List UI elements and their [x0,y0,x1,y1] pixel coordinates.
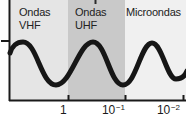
x-tick-label-10e-1-exponent: −1 [116,103,125,112]
wave-curve [10,42,186,85]
region-label-vhf: Ondas VHF [19,6,50,32]
x-tick-label-10e-2-base: 10 [157,103,170,117]
wave-band-diagram: Ondas VHF Ondas UHF Microondas 1 10−1 10… [0,0,186,121]
region-label-uhf-line2: UHF [75,19,97,31]
region-label-uhf: Ondas UHF [75,6,106,32]
region-label-microondas-line1: Microondas [126,6,181,18]
x-tick-label-10e-1: 10−1 [102,103,124,117]
x-tick-label-1: 1 [60,103,66,117]
region-label-vhf-line1: Ondas [19,6,50,18]
region-label-vhf-line2: VHF [19,19,40,31]
x-tick-label-10e-2: 10−2 [157,103,179,117]
region-label-uhf-line1: Ondas [75,6,106,18]
x-tick-label-10e-2-exponent: −2 [171,103,180,112]
region-label-microondas: Microondas [126,6,181,19]
x-tick-label-10e-1-base: 10 [102,103,115,117]
x-tick-label-1-base: 1 [60,103,66,117]
